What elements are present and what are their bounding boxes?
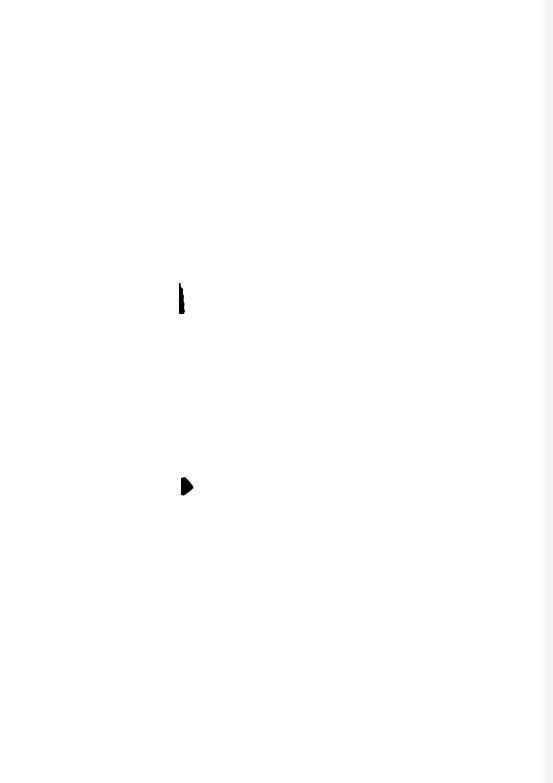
vertical-bar-mark [178,283,186,314]
wedge-mark-icon [181,477,194,496]
wedge-mark [181,477,194,496]
scan-edge-shadow [539,0,553,783]
document-page [0,0,553,783]
vertical-bar-mark-icon [178,283,186,314]
